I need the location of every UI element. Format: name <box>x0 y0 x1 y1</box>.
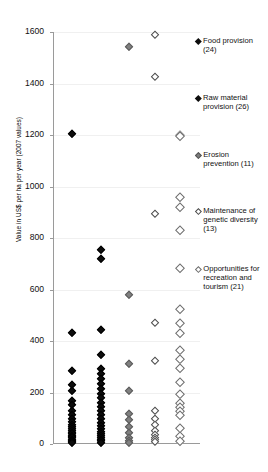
data-point <box>175 345 184 354</box>
legend-marker-icon <box>195 38 201 44</box>
legend-label: Opportunities forrecreation andtourism (… <box>203 264 259 292</box>
data-point <box>96 255 105 264</box>
legend-label-line1: Food provision <box>203 36 253 45</box>
legend-label-line1: Maintenance of <box>203 206 255 215</box>
data-point <box>68 387 77 396</box>
legend-marker-icon <box>195 208 202 215</box>
scatter-chart: Value in US$ per ha per year (2007 value… <box>0 0 268 472</box>
data-point <box>96 351 105 360</box>
legend-label: Raw materialprovision (26) <box>203 93 249 111</box>
y-tick-mark <box>50 290 53 291</box>
legend-marker-icon <box>195 152 202 159</box>
data-point <box>175 354 184 363</box>
y-tick-mark <box>50 84 53 85</box>
y-tick-label-600: 600 <box>8 285 44 294</box>
legend-label: Maintenance ofgenetic diversity(13) <box>203 206 257 234</box>
legend-label-line2: genetic diversity <box>203 215 257 224</box>
legend-label-line1: Erosion <box>203 150 229 159</box>
data-point <box>68 130 77 139</box>
gridline <box>54 187 200 188</box>
y-tick-label-1200: 1200 <box>8 130 44 139</box>
data-point <box>124 43 133 52</box>
legend-entry-food-provision[interactable]: Food provision(24) <box>196 36 268 54</box>
gridline <box>54 84 200 85</box>
y-tick-label-800: 800 <box>8 233 44 242</box>
y-tick-mark <box>50 238 53 239</box>
data-point <box>175 202 184 211</box>
y-axis-tick-labels: 02004006008001000120014001600 <box>8 0 44 472</box>
y-tick-label-1000: 1000 <box>8 182 44 191</box>
y-tick-label-1400: 1400 <box>8 79 44 88</box>
y-tick-label-400: 400 <box>8 336 44 345</box>
data-point <box>175 226 184 235</box>
data-point <box>124 360 133 369</box>
data-point <box>175 389 184 398</box>
legend-label-line2: prevention (11) <box>203 159 254 168</box>
gridline <box>54 290 200 291</box>
y-tick-mark <box>50 444 53 445</box>
legend-label: Erosionprevention (11) <box>203 150 254 168</box>
plot-area <box>53 32 200 444</box>
data-point <box>175 363 184 372</box>
y-tick-label-200: 200 <box>8 388 44 397</box>
legend-label-line2: recreation and <box>203 273 252 282</box>
y-tick-label-1600: 1600 <box>8 27 44 36</box>
legend-label-line3: (13) <box>203 224 217 233</box>
legend-marker-icon <box>195 266 202 273</box>
data-point <box>175 437 184 446</box>
legend-entry-raw-material-provision[interactable]: Raw materialprovision (26) <box>196 93 268 111</box>
y-tick-mark <box>50 187 53 188</box>
y-tick-mark <box>50 32 53 33</box>
legend-label-line2: (24) <box>203 45 217 54</box>
data-point <box>175 193 184 202</box>
data-point <box>124 387 133 396</box>
legend-marker-icon <box>195 95 201 101</box>
data-point <box>150 73 159 82</box>
y-tick-mark <box>50 135 53 136</box>
y-tick-mark <box>50 393 53 394</box>
legend-entry-genetic-diversity[interactable]: Maintenance ofgenetic diversity(13) <box>196 206 268 234</box>
data-point <box>124 291 133 300</box>
legend-label-line2: provision (26) <box>203 102 249 111</box>
data-point <box>175 318 184 327</box>
legend-label-line1: Raw material <box>203 93 247 102</box>
data-point <box>175 378 184 387</box>
legend-label-line1: Opportunities for <box>203 264 259 273</box>
legend-label: Food provision(24) <box>203 36 253 54</box>
gridline <box>54 238 200 239</box>
data-point <box>150 357 159 366</box>
legend-entry-erosion-prevention[interactable]: Erosionprevention (11) <box>196 150 268 168</box>
gridline <box>54 341 200 342</box>
data-point <box>96 325 105 334</box>
data-point <box>150 210 159 219</box>
legend-label-line3: tourism (21) <box>203 282 244 291</box>
data-point <box>175 328 184 337</box>
data-point <box>175 304 184 313</box>
data-point <box>175 263 184 272</box>
gridline <box>54 32 200 33</box>
legend-entry-recreation-tourism[interactable]: Opportunities forrecreation andtourism (… <box>196 264 268 292</box>
data-point <box>68 329 77 338</box>
data-point <box>150 318 159 327</box>
y-tick-label-0: 0 <box>8 439 44 448</box>
y-tick-mark <box>50 341 53 342</box>
data-point <box>68 367 77 376</box>
